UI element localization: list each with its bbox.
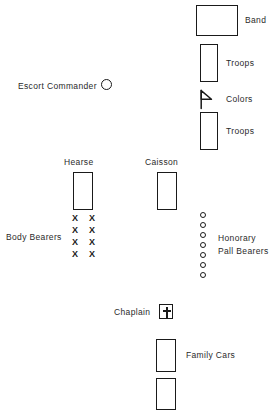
colors-flag-icon — [198, 88, 218, 114]
body-bearer-x-marker: X — [72, 250, 78, 259]
troops-2-rectangle — [200, 112, 218, 150]
honorary-pall-bearer-circle — [200, 232, 206, 238]
honorary-pall-bearers-label-line2: Pall Bearers — [218, 246, 269, 257]
caisson-label: Caisson — [145, 157, 178, 168]
family-cars-rectangle-1 — [156, 339, 176, 372]
colors-label: Colors — [226, 94, 253, 105]
caisson-rectangle — [157, 172, 177, 210]
troops-1-label: Troops — [226, 58, 254, 69]
honorary-pall-bearer-circle — [200, 222, 206, 228]
honorary-pall-bearer-circle — [200, 212, 206, 218]
hearse-rectangle — [73, 172, 93, 210]
honorary-pall-bearers-label-line1: Honorary — [218, 233, 256, 244]
band-label: Band — [245, 15, 266, 26]
troops-2-label: Troops — [226, 126, 254, 137]
hearse-label: Hearse — [64, 157, 94, 168]
body-bearers-label: Body Bearers — [6, 232, 62, 243]
body-bearer-x-marker: X — [89, 238, 95, 247]
honorary-pall-bearer-circle — [200, 252, 206, 258]
body-bearer-x-marker: X — [89, 250, 95, 259]
troops-1-rectangle — [200, 44, 218, 82]
body-bearer-x-marker: X — [72, 214, 78, 223]
funeral-procession-diagram: Band Troops Escort Commander Colors Troo… — [0, 0, 278, 413]
honorary-pall-bearer-circle — [200, 242, 206, 248]
body-bearer-x-marker: X — [72, 238, 78, 247]
body-bearer-x-marker: X — [72, 226, 78, 235]
escort-commander-circle — [101, 79, 112, 90]
body-bearer-x-marker: X — [89, 214, 95, 223]
honorary-pall-bearer-circle — [200, 272, 206, 278]
chaplain-label: Chaplain — [114, 307, 150, 318]
family-cars-rectangle-2 — [156, 378, 176, 410]
body-bearer-x-marker: X — [89, 226, 95, 235]
escort-commander-label: Escort Commander — [18, 81, 97, 92]
chaplain-cross-box-icon — [159, 304, 173, 319]
family-cars-label: Family Cars — [186, 350, 235, 361]
band-rectangle — [196, 5, 238, 36]
honorary-pall-bearer-circle — [200, 262, 206, 268]
